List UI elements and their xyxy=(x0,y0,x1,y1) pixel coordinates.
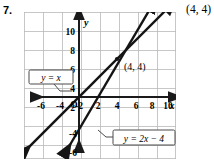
problem-number: 7. xyxy=(3,4,12,16)
x-tick-2: 2 xyxy=(96,101,101,111)
graph-svg: 10 8 6 4 2 -4 -6 O -6 -4 -2 2 4 6 8 10 y… xyxy=(24,12,176,159)
y-tick-neg4: -4 xyxy=(69,129,77,139)
y-axis-label: y xyxy=(83,17,89,28)
x-tick-neg2: -2 xyxy=(75,101,83,111)
y-tick-4: 4 xyxy=(70,84,75,94)
x-tick-4: 4 xyxy=(115,101,120,111)
x-tick-neg4: -4 xyxy=(56,101,64,111)
intersection-label: (4, 4) xyxy=(124,61,146,73)
y-tick-neg6: -6 xyxy=(69,148,77,158)
x-tick-neg6: -6 xyxy=(37,101,45,111)
x-tick-6: 6 xyxy=(134,101,139,111)
x-axis-label: x xyxy=(169,100,175,111)
intersection-point-dot xyxy=(115,57,119,61)
y-tick-10: 10 xyxy=(66,27,76,37)
x-tick-8: 8 xyxy=(150,101,155,111)
answer-label: (4, 4) xyxy=(186,3,211,16)
figure-container: 7. (4, 4) xyxy=(0,0,214,167)
coordinate-graph: 10 8 6 4 2 -4 -6 O -6 -4 -2 2 4 6 8 10 y… xyxy=(24,12,176,159)
callout-label-y-equals-2x-minus-4: y = 2x − 4 xyxy=(123,134,165,144)
callout-label-y-equals-x: y = x xyxy=(40,73,61,83)
y-tick-8: 8 xyxy=(70,46,75,56)
